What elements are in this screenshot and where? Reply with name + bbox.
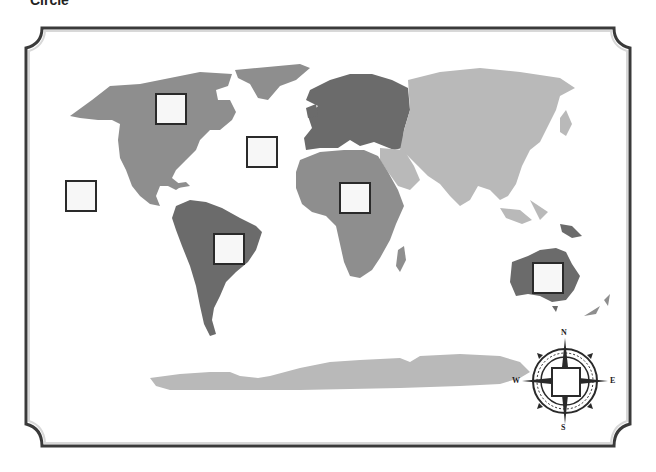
south-america (172, 200, 262, 336)
compass-north-label: N (561, 328, 567, 337)
label-box-north-america[interactable] (155, 93, 187, 125)
label-box-south-america[interactable] (213, 233, 245, 265)
label-box-compass-center[interactable] (551, 367, 581, 397)
label-box-africa[interactable] (339, 182, 371, 214)
label-box-australia[interactable] (532, 262, 564, 294)
compass-west-label: W (512, 376, 520, 385)
greenland (235, 64, 310, 100)
label-box-pacific-ocean[interactable] (65, 180, 97, 212)
compass-south-label: S (561, 423, 565, 432)
compass-east-label: E (610, 376, 615, 385)
europe (304, 74, 410, 150)
asia (400, 68, 575, 206)
label-box-atlantic-ocean[interactable] (246, 136, 278, 168)
antarctica (150, 354, 530, 390)
compass-rose: N S W E (515, 330, 615, 432)
